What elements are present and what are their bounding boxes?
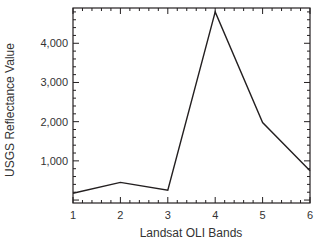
x-tick-label: 1 <box>70 209 76 221</box>
y-tick-label: 1,000 <box>40 155 68 167</box>
x-axis-title: Landsat OLI Bands <box>140 226 243 240</box>
x-tick-label: 5 <box>260 209 266 221</box>
x-tick-label: 3 <box>165 209 171 221</box>
y-axis-tick-labels: 1,0002,0003,0004,000 <box>40 37 68 167</box>
y-tick-label: 2,000 <box>40 116 68 128</box>
x-tick-label: 2 <box>117 209 123 221</box>
x-axis-tick-labels: 123456 <box>70 209 313 221</box>
line-chart: 1,0002,0003,0004,000 123456 Landsat OLI … <box>0 0 317 245</box>
axis-minor-ticks <box>73 8 310 203</box>
y-tick-label: 3,000 <box>40 76 68 88</box>
x-tick-label: 4 <box>212 209 218 221</box>
y-tick-label: 4,000 <box>40 37 68 49</box>
plot-frame <box>73 8 310 203</box>
y-axis-title: USGS Reflectance Value <box>3 43 17 177</box>
x-tick-label: 6 <box>307 209 313 221</box>
reflectance-line <box>73 12 310 193</box>
